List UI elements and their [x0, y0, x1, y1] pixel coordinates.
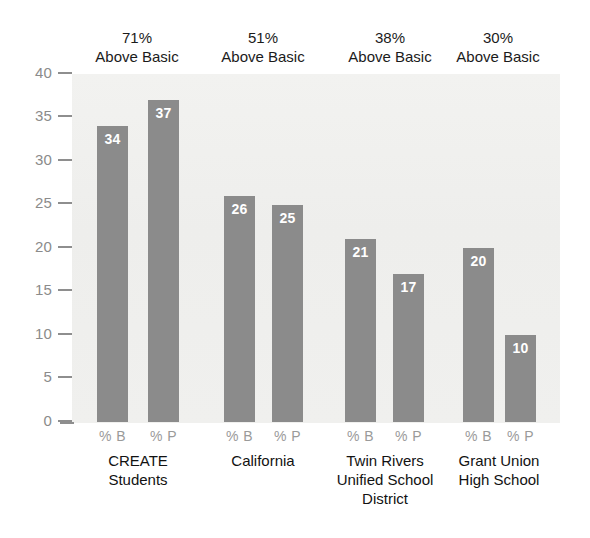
- bar-chart: 40 35 30 25 20 15 10 5: [0, 0, 590, 538]
- y-tick-mark: [58, 246, 72, 248]
- y-tick-label: 15: [35, 282, 58, 298]
- y-tick: 35: [0, 108, 72, 124]
- group-header-percent: 30%: [423, 28, 573, 47]
- y-tick-mark: [58, 376, 72, 378]
- series-label-b: % B: [458, 428, 499, 444]
- category-label: Grant Union High School: [424, 451, 574, 489]
- bar-value-label: 34: [97, 131, 128, 147]
- group-header-annotation: 30% Above Basic: [423, 28, 573, 66]
- bar-value-label: 17: [393, 279, 424, 295]
- series-label-p: % P: [388, 428, 429, 444]
- y-tick-label: 0: [43, 413, 58, 429]
- bar[interactable]: 37: [148, 100, 179, 422]
- series-label-p: % P: [267, 428, 308, 444]
- y-tick: 0: [0, 413, 72, 429]
- y-tick: 30: [0, 152, 72, 168]
- y-tick-label: 5: [43, 369, 58, 385]
- bar-value-label: 37: [148, 105, 179, 121]
- series-label-p: % P: [500, 428, 541, 444]
- y-tick: 25: [0, 195, 72, 211]
- y-tick-label: 10: [35, 326, 58, 342]
- bar[interactable]: 20: [463, 248, 494, 422]
- category-label-line: District: [310, 489, 460, 508]
- bar-value-label: 20: [463, 253, 494, 269]
- bar[interactable]: 21: [345, 239, 376, 422]
- bar-value-label: 10: [505, 340, 536, 356]
- y-tick: 15: [0, 282, 72, 298]
- group-header-subtitle: Above Basic: [423, 47, 573, 66]
- y-tick-label: 25: [35, 195, 58, 211]
- bar[interactable]: 25: [272, 205, 303, 422]
- y-tick: 10: [0, 326, 72, 342]
- y-tick: 5: [0, 369, 72, 385]
- bar-value-label: 25: [272, 210, 303, 226]
- y-tick-mark: [58, 202, 72, 204]
- y-tick-mark: [58, 72, 72, 74]
- category-label-line: Students: [63, 470, 213, 489]
- x-axis-baseline-mark: [60, 422, 74, 424]
- bar[interactable]: 26: [224, 196, 255, 422]
- series-label-p: % P: [143, 428, 184, 444]
- y-tick-label: 35: [35, 108, 58, 124]
- y-tick-label: 40: [35, 65, 58, 81]
- category-label-line: Grant Union: [424, 451, 574, 470]
- y-tick-mark: [58, 333, 72, 335]
- series-label-b: % B: [340, 428, 381, 444]
- bar-value-label: 21: [345, 244, 376, 260]
- bar-value-label: 26: [224, 201, 255, 217]
- category-label-line: High School: [424, 470, 574, 489]
- bar[interactable]: 10: [505, 335, 536, 422]
- y-tick-label: 30: [35, 152, 58, 168]
- y-tick: 20: [0, 239, 72, 255]
- y-tick: 40: [0, 65, 72, 81]
- y-tick-label: 20: [35, 239, 58, 255]
- bar[interactable]: 17: [393, 274, 424, 422]
- y-tick-mark: [58, 289, 72, 291]
- series-label-b: % B: [92, 428, 133, 444]
- y-tick-mark: [58, 115, 72, 117]
- y-tick-mark: [58, 159, 72, 161]
- series-label-b: % B: [219, 428, 260, 444]
- bar[interactable]: 34: [97, 126, 128, 422]
